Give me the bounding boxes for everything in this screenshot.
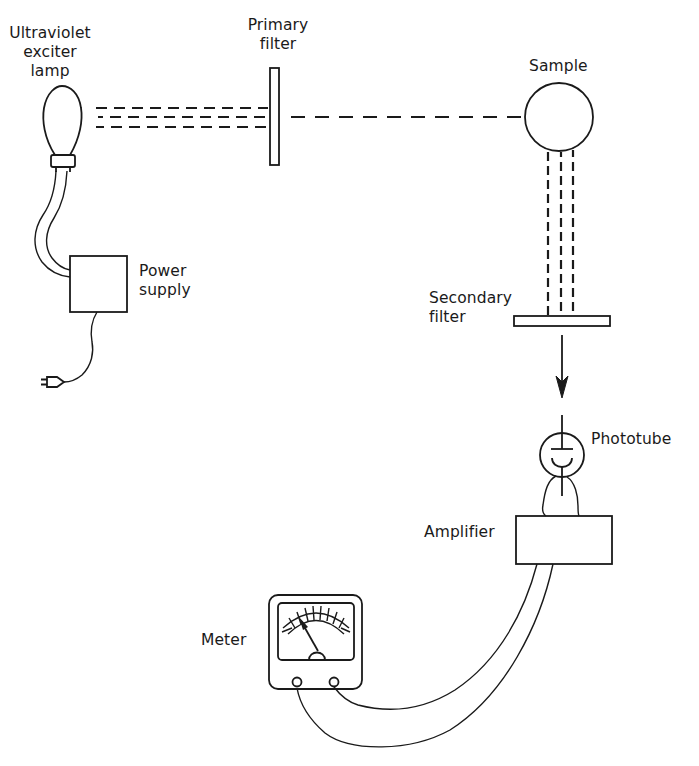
meter-terminal-right [330,678,339,687]
meter-icon [269,595,362,689]
uv-lamp-icon [43,86,81,172]
excitation-beams [96,108,268,127]
emission-beams [548,150,573,315]
diagram-drawing [0,0,699,766]
fluorometer-diagram: Ultraviolet exciter lamp Primary filter … [0,0,699,766]
lamp-cable [35,171,70,277]
power-cord [64,312,97,382]
primary-filter [270,68,279,165]
power-supply-box [70,256,127,312]
plug-icon [41,377,64,387]
amplifier-box [516,516,612,564]
meter-cable [297,564,553,747]
secondary-filter [514,316,610,326]
down-arrow-icon [556,335,568,398]
meter-terminal-left [293,678,302,687]
phototube-icon [540,415,584,516]
sample-cuvette [525,83,593,151]
